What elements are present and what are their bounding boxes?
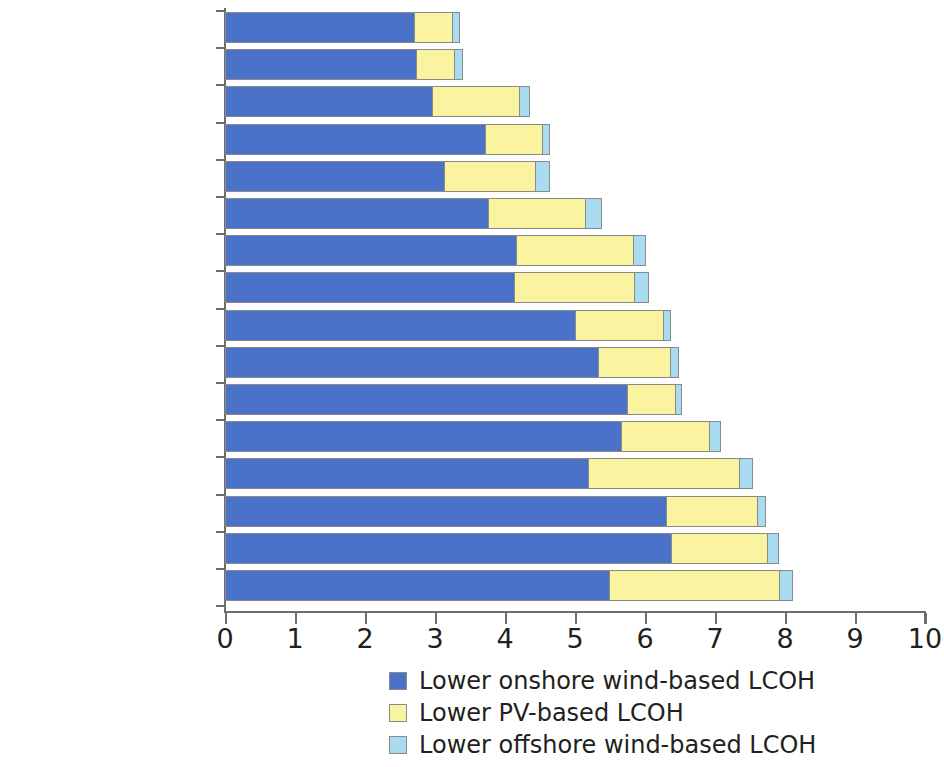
bar-segment-pv	[414, 12, 454, 43]
legend-item[interactable]: Lower offshore wind-based LCOH	[389, 730, 816, 760]
bar-segment-pv	[666, 496, 758, 527]
bar-segment-onshore	[225, 272, 515, 303]
bar-segment-offshore	[779, 570, 793, 601]
chart-row: Panama	[225, 233, 925, 268]
chart-row: Guyana	[225, 196, 925, 231]
chart-row: Dominican Republic	[225, 270, 925, 305]
bar-segment-onshore	[225, 12, 415, 43]
y-axis-tick	[216, 122, 225, 124]
bar-segment-onshore	[225, 198, 489, 229]
bar-segment-pv	[627, 384, 676, 415]
chart-row: Chile	[225, 47, 925, 82]
stacked-bar	[225, 496, 766, 527]
y-axis-tick	[216, 605, 225, 607]
chart-row: Trinidad and Tobago	[225, 419, 925, 454]
bar-segment-offshore	[519, 86, 531, 117]
bar-segment-offshore	[585, 198, 602, 229]
bar-segment-offshore	[452, 12, 460, 43]
chart-row: Bolivia	[225, 494, 925, 529]
bar-segment-onshore	[225, 86, 433, 117]
bar-segment-pv	[621, 421, 710, 452]
x-axis-tick-label: 8	[776, 622, 793, 656]
bar-segment-pv	[514, 272, 635, 303]
y-axis-tick	[216, 159, 225, 161]
chart-row: El Salvador	[225, 568, 925, 603]
bar-segment-offshore	[454, 49, 463, 80]
chart-row: Colombia	[225, 10, 925, 45]
x-axis-tick-label: 7	[706, 622, 723, 656]
y-axis-tick	[216, 233, 225, 235]
y-axis-tick	[216, 456, 225, 458]
stacked-bar	[225, 421, 721, 452]
bar-segment-offshore	[757, 496, 766, 527]
bar-segment-onshore	[225, 533, 672, 564]
chart-row: Costa Rica	[225, 456, 925, 491]
y-axis-tick	[216, 196, 225, 198]
bar-segment-onshore	[225, 384, 628, 415]
legend-label: Lower offshore wind-based LCOH	[419, 730, 816, 760]
bar-segment-pv	[609, 570, 780, 601]
chart-row: Jamaica	[225, 531, 925, 566]
bar-segment-onshore	[225, 421, 622, 452]
bar-segment-onshore	[225, 235, 517, 266]
y-axis-tick	[216, 494, 225, 496]
x-axis-tick-label: 6	[636, 622, 653, 656]
chart-row: Mexico	[225, 84, 925, 119]
legend-label: Lower onshore wind-based LCOH	[419, 666, 815, 696]
bar-segment-offshore	[663, 310, 671, 341]
x-axis-tick-label: 9	[846, 622, 863, 656]
stacked-bar	[225, 533, 779, 564]
x-axis-tick-label: 4	[496, 622, 513, 656]
legend-label: Lower PV-based LCOH	[419, 698, 684, 728]
x-axis-tick-label: 1	[286, 622, 303, 656]
bar-segment-pv	[516, 235, 634, 266]
stacked-bar	[225, 458, 753, 489]
stacked-bar	[225, 124, 550, 155]
stacked-bar	[225, 161, 550, 192]
chart-row: Peru	[225, 159, 925, 194]
legend-item[interactable]: Lower onshore wind-based LCOH	[389, 666, 816, 696]
bar-segment-offshore	[709, 421, 721, 452]
y-axis-tick	[216, 382, 225, 384]
bar-segment-pv	[598, 347, 671, 378]
chart-row: Uruguay	[225, 382, 925, 417]
plot-area: ColombiaChileMexicoBrazilPeruGuyanaPanam…	[225, 8, 925, 604]
x-axis-tick-label: 10	[908, 622, 942, 656]
y-axis-tick	[216, 308, 225, 310]
bar-segment-onshore	[225, 570, 610, 601]
legend-swatch-offshore	[389, 736, 407, 754]
lcoh-stacked-bar-chart: ColombiaChileMexicoBrazilPeruGuyanaPanam…	[0, 0, 944, 767]
bar-segment-offshore	[542, 124, 550, 155]
stacked-bar	[225, 12, 460, 43]
x-axis-tick-label: 5	[566, 622, 583, 656]
chart-legend: Lower onshore wind-based LCOHLower PV-ba…	[389, 666, 816, 762]
legend-item[interactable]: Lower PV-based LCOH	[389, 698, 816, 728]
stacked-bar	[225, 272, 649, 303]
bar-segment-offshore	[739, 458, 753, 489]
bar-segment-pv	[588, 458, 740, 489]
y-axis-tick	[216, 47, 225, 49]
chart-row: Paraguay	[225, 345, 925, 380]
x-axis-tick-label: 3	[426, 622, 443, 656]
stacked-bar	[225, 86, 530, 117]
bar-segment-onshore	[225, 161, 445, 192]
bar-segment-onshore	[225, 310, 576, 341]
bar-segment-onshore	[225, 124, 486, 155]
chart-row: Brazil	[225, 122, 925, 157]
legend-swatch-onshore	[389, 672, 407, 690]
bar-segment-pv	[575, 310, 664, 341]
bar-segment-pv	[432, 86, 520, 117]
bar-segment-onshore	[225, 49, 417, 80]
bar-segment-onshore	[225, 496, 667, 527]
y-axis-tick	[216, 270, 225, 272]
bar-segment-offshore	[675, 384, 682, 415]
y-axis-tick	[216, 419, 225, 421]
bar-segment-pv	[485, 124, 543, 155]
x-axis-tick-label: 0	[216, 622, 233, 656]
y-axis-tick	[216, 531, 225, 533]
legend-swatch-pv	[389, 704, 407, 722]
stacked-bar	[225, 570, 793, 601]
bar-segment-offshore	[670, 347, 679, 378]
stacked-bar	[225, 198, 602, 229]
bar-segment-offshore	[634, 272, 649, 303]
